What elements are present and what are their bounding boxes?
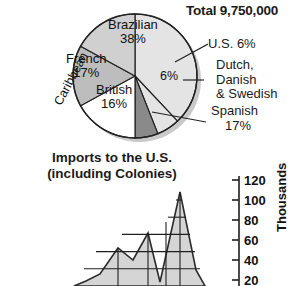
- y-axis-title: Thousands: [274, 163, 289, 232]
- ytick-label-80: 80: [244, 213, 258, 228]
- pie-label-british-pct: 16%: [101, 96, 127, 111]
- pie-callout-spanish-line2: 17%: [211, 118, 251, 133]
- pie-callout-dutch-danish-swedish: Dutch, Danish & Swedish: [216, 58, 277, 102]
- ytick-label-100: 100: [244, 193, 266, 208]
- pie-label-dutch-pct: 6%: [160, 70, 178, 83]
- pie-label-brazilian-pct: 38%: [120, 31, 146, 46]
- imports-area-series[interactable]: [74, 192, 205, 286]
- ytick-label-60: 60: [244, 233, 258, 248]
- y-axis-ticks: [232, 180, 239, 280]
- pie-label-brazilian: Brazilian 38%: [108, 18, 158, 45]
- chart-title-line1: Imports to the U.S.: [52, 150, 172, 165]
- chart-y-axis: 120 100 80 60 40 20 Thousands: [222, 180, 302, 286]
- y-axis-line: [222, 176, 246, 286]
- imports-chart-panel: Imports to the U.S. (including Colonies): [0, 148, 302, 286]
- pie-callout-us: U.S. 6%: [208, 36, 256, 51]
- chart-title: Imports to the U.S. (including Colonies): [0, 150, 224, 181]
- pie-callout-dutch-line1: Dutch,: [216, 57, 254, 72]
- ytick-label-120: 120: [244, 173, 266, 188]
- pie-callout-spanish-line1: Spanish: [211, 103, 258, 118]
- pie-callout-dutch-line2: Danish: [216, 72, 256, 87]
- pie-callout-dutch-line3: & Swedish: [216, 86, 277, 101]
- chart-title-line2: (including Colonies): [0, 166, 224, 182]
- pie-callout-spanish: Spanish 17%: [211, 104, 258, 133]
- ytick-label-20: 20: [244, 273, 258, 286]
- ytick-label-40: 40: [244, 253, 258, 268]
- pie-label-british: British 16%: [96, 83, 132, 110]
- imports-area-graphic: [0, 180, 224, 286]
- pie-chart-panel: Total 9,750,000: [0, 0, 302, 148]
- figure-root: Total 9,750,000: [0, 0, 302, 286]
